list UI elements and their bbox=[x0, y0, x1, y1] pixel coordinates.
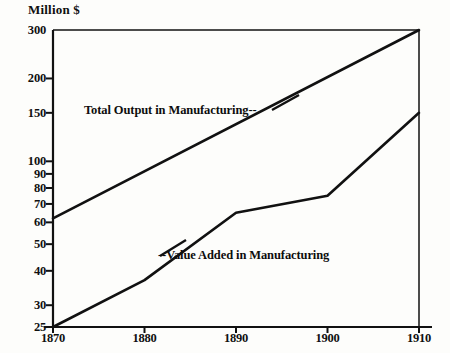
plot-area bbox=[0, 0, 450, 353]
series-line-value-added-in-manufacturing bbox=[53, 113, 419, 327]
series-label-value-added: --Value Added in Manufacturing bbox=[158, 248, 329, 263]
series-lines bbox=[53, 30, 419, 327]
series-line-total-output-in-manufacturing bbox=[53, 30, 419, 218]
chart-container: Million $ 3002001501009080706050403025 1… bbox=[0, 0, 450, 353]
axis-lines bbox=[44, 30, 432, 327]
annotation-leader-lines bbox=[160, 95, 299, 256]
series-label-total-output: Total Output in Manufacturing-- bbox=[84, 103, 257, 118]
